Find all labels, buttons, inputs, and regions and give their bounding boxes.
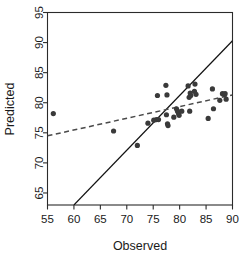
identity-line: [74, 41, 233, 205]
data-point: [211, 106, 216, 111]
x-tick-label: 60: [68, 213, 81, 225]
data-point: [223, 91, 228, 96]
x-tick-label: 90: [226, 213, 239, 225]
x-axis-ticks: 5560657075808590: [41, 205, 239, 225]
fit-line: [48, 95, 233, 136]
data-point: [164, 112, 169, 117]
data-point: [206, 116, 211, 121]
data-point: [187, 109, 192, 114]
y-tick-label: 70: [33, 156, 45, 169]
y-tick-label: 95: [33, 6, 45, 19]
data-point: [165, 123, 170, 128]
plot-frame: [48, 13, 233, 206]
data-point: [192, 81, 197, 86]
data-point: [155, 93, 160, 98]
x-tick-label: 75: [147, 213, 160, 225]
data-point: [171, 115, 176, 120]
data-point: [164, 92, 169, 97]
data-point: [217, 98, 222, 103]
data-point: [186, 83, 191, 88]
x-tick-label: 80: [173, 213, 186, 225]
data-point: [163, 83, 168, 88]
data-point: [188, 93, 193, 98]
reference-lines: [48, 41, 233, 205]
y-tick-label: 90: [33, 36, 45, 49]
data-point: [51, 111, 56, 116]
data-point: [179, 109, 184, 114]
y-tick-label: 75: [33, 126, 45, 139]
data-point: [156, 117, 161, 122]
x-tick-label: 55: [41, 213, 54, 225]
data-point: [193, 92, 198, 97]
x-tick-label: 65: [94, 213, 107, 225]
data-point: [210, 86, 215, 91]
chart-canvas: 5560657075808590 65707580859095 Observed…: [0, 0, 250, 257]
data-point: [145, 121, 150, 126]
y-axis-ticks: 65707580859095: [33, 6, 48, 199]
data-point: [135, 143, 140, 148]
x-tick-label: 85: [200, 213, 213, 225]
y-tick-label: 80: [33, 96, 45, 109]
x-axis-title: Observed: [113, 239, 167, 253]
y-axis-title: Predicted: [3, 83, 17, 136]
y-tick-label: 85: [33, 66, 45, 79]
x-tick-label: 70: [120, 213, 133, 225]
data-point: [224, 97, 229, 102]
scatter-plot-figure: 5560657075808590 65707580859095 Observed…: [0, 0, 250, 257]
y-tick-label: 65: [33, 187, 45, 200]
data-point: [111, 128, 116, 133]
